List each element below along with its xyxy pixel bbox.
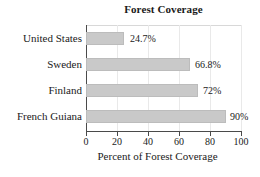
bar-value-label: 72% [203, 84, 221, 97]
x-tick-label: 80 [195, 136, 225, 147]
category-label-finland: Finland [0, 84, 82, 97]
bar-value-label: 66.8% [195, 58, 221, 71]
x-tick-label: 100 [226, 136, 256, 147]
bar-finland [86, 84, 198, 97]
forest-coverage-bar-chart: Forest Coverage 24.7% 66.8% 72% 90% Unit… [0, 0, 260, 177]
x-tick-label: 40 [133, 136, 163, 147]
bar-french-guiana [86, 110, 226, 123]
category-label-sweden: Sweden [0, 58, 82, 71]
x-axis-title: Percent of Forest Coverage [60, 150, 255, 162]
bar-united-states [86, 32, 124, 45]
bar-value-label: 90% [230, 110, 248, 123]
x-tick-label: 60 [164, 136, 194, 147]
x-tick-label: 20 [102, 136, 132, 147]
chart-title: Forest Coverage [86, 3, 241, 15]
bar-value-label: 24.7% [130, 32, 156, 45]
category-label-united-states: United States [0, 32, 82, 45]
x-axis-line [86, 131, 242, 132]
bar-sweden [86, 58, 190, 71]
x-tick-label: 0 [71, 136, 101, 147]
category-label-french-guiana: French Guiana [0, 110, 82, 123]
